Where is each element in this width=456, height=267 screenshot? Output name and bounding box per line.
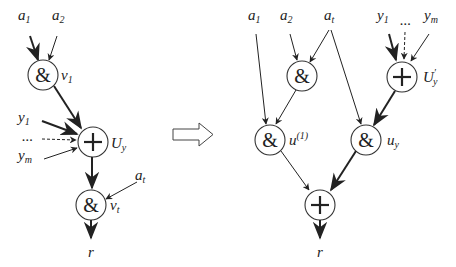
edge-a1-u1 <box>256 34 266 124</box>
label-y1: y1 <box>16 109 30 127</box>
left-graph: a1 a2 & v1 y1 ... ym Uy at & vt <box>16 7 146 260</box>
edge-a2-v1 <box>49 36 57 60</box>
edge-a1-v1 <box>30 36 38 60</box>
edge-and-u1 <box>276 90 296 124</box>
edge-ym-Uyprime <box>411 34 429 61</box>
edge-v1-Uy <box>54 86 81 128</box>
edge-a2-and <box>290 34 297 60</box>
label-Uy: Uy <box>111 135 127 153</box>
label-v1: v1 <box>61 67 73 85</box>
label-r-left: r <box>88 244 94 260</box>
op-and-top: & <box>294 65 310 87</box>
label-u1: u(1) <box>289 130 309 148</box>
edge-dots-Uyprime <box>404 32 405 59</box>
edge-y1-Uyprime <box>389 34 396 60</box>
transform-arrow-icon <box>173 123 213 146</box>
diagram-canvas: a1 a2 & v1 y1 ... ym Uy at & vt <box>0 0 456 267</box>
op-and-v1: & <box>35 64 51 86</box>
op-and-vt: & <box>83 194 99 216</box>
label-ym-right: ym <box>422 7 438 25</box>
edge-u1-sum <box>281 151 309 190</box>
edge-at-uy <box>331 30 361 124</box>
op-and-u1: & <box>262 129 278 151</box>
label-ym: ym <box>16 147 32 165</box>
edge-y1-Uy <box>42 121 77 134</box>
op-and-uy: & <box>358 129 374 151</box>
label-a1-right: a1 <box>248 7 261 25</box>
label-vt: vt <box>110 197 120 215</box>
edge-Uyprime-uy <box>374 91 395 125</box>
label-a2-right: a2 <box>280 7 293 25</box>
label-a2: a2 <box>52 7 65 25</box>
label-dots: ... <box>22 128 33 144</box>
label-y1-right: y1 <box>375 7 389 25</box>
edge-ym-Uy <box>44 148 77 159</box>
label-a1: a1 <box>18 7 31 25</box>
label-r-right: r <box>317 244 323 260</box>
right-graph: a1 a2 at y1 ... ym & U′y & u(1) <box>248 7 438 260</box>
label-Uy-prime: U′y <box>423 67 438 87</box>
edge-at-and <box>310 30 329 62</box>
label-dots-right: ... <box>400 12 411 28</box>
edge-uy-sum <box>331 151 356 190</box>
label-uy: uy <box>387 132 400 150</box>
label-at-right: at <box>324 7 335 25</box>
edge-dots-Uy <box>42 139 76 140</box>
